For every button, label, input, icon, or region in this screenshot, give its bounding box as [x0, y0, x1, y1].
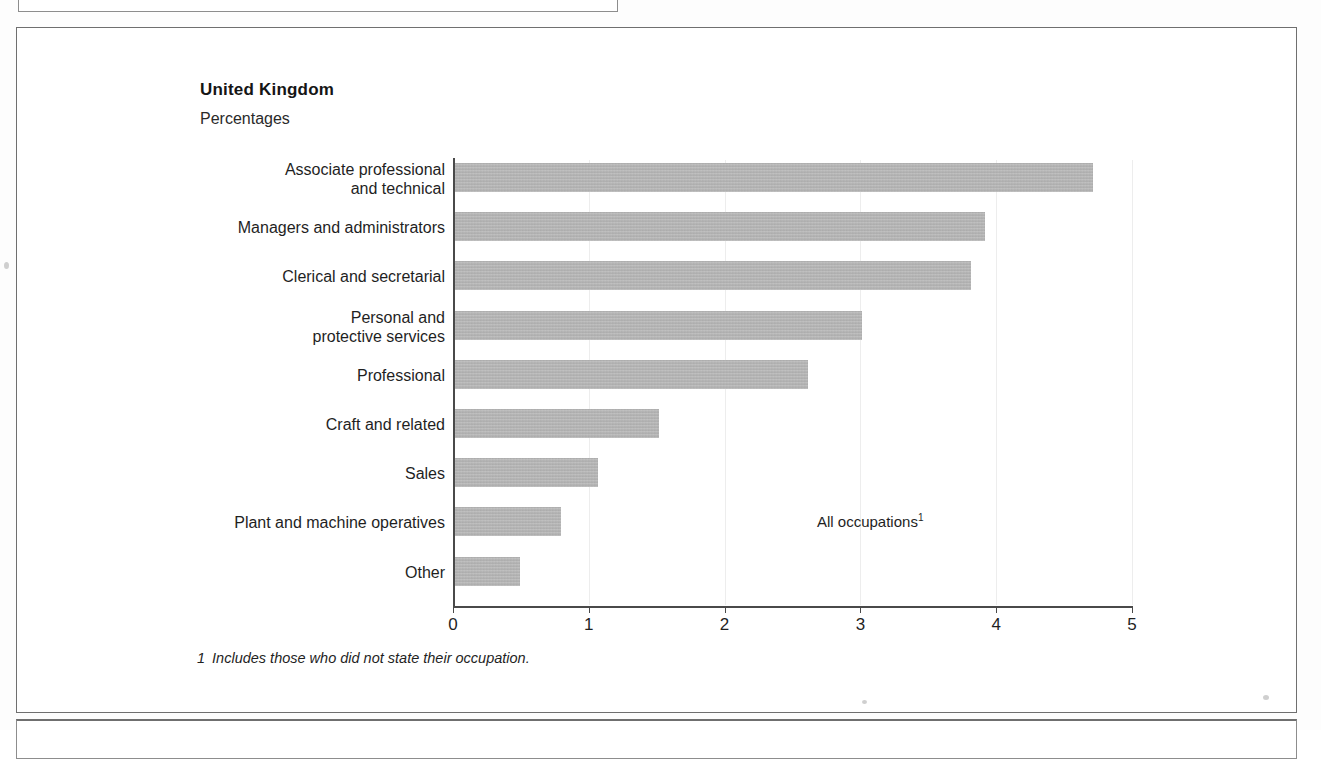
bar	[455, 212, 985, 241]
annotation-footnote-marker: 1	[918, 512, 924, 523]
bar-row: Associate professional and technical	[0, 163, 1321, 193]
x-tick-label: 2	[705, 615, 745, 635]
annotation-label: All occupations	[817, 513, 918, 530]
bar	[455, 261, 971, 290]
x-tick-label: 1	[569, 615, 609, 635]
bar	[455, 163, 1093, 192]
x-tick-mark	[1132, 606, 1133, 613]
bar-category-label: Managers and administrators	[45, 218, 445, 237]
x-tick-label: 0	[433, 615, 473, 635]
x-tick-mark	[453, 606, 454, 613]
bar-row: Personal and protective services	[0, 311, 1321, 341]
bar-row: Professional	[0, 360, 1321, 390]
x-tick-label: 4	[976, 615, 1016, 635]
bar	[455, 557, 520, 586]
bar-category-label: Clerical and secretarial	[45, 267, 445, 286]
bar-category-label: Plant and machine operatives	[45, 513, 445, 532]
x-tick-mark	[725, 606, 726, 613]
x-tick-mark	[589, 606, 590, 613]
bar-row: Other	[0, 557, 1321, 587]
bar-row: Clerical and secretarial	[0, 261, 1321, 291]
bar	[455, 360, 808, 389]
bar	[455, 458, 598, 487]
bar-category-label: Sales	[45, 464, 445, 483]
bar-category-label: Associate professional and technical	[45, 160, 445, 198]
footnote-marker: 1	[197, 650, 205, 666]
x-axis-line	[453, 606, 1132, 608]
x-tick-label: 5	[1112, 615, 1152, 635]
footnote: 1Includes those who did not state their …	[197, 650, 530, 666]
bar	[455, 311, 862, 340]
bar-row: Plant and machine operatives	[0, 507, 1321, 537]
bar-category-label: Craft and related	[45, 415, 445, 434]
bar-row: Managers and administrators	[0, 212, 1321, 242]
bar	[455, 507, 561, 536]
bar-category-label: Personal and protective services	[45, 308, 445, 346]
bar	[455, 409, 659, 438]
x-tick-mark	[996, 606, 997, 613]
x-tick-label: 3	[840, 615, 880, 635]
bar-row: Sales	[0, 458, 1321, 488]
bar-category-label: Other	[45, 563, 445, 582]
x-tick-mark	[860, 606, 861, 613]
all-occupations-annotation: All occupations1	[817, 512, 923, 530]
bar-row: Craft and related	[0, 409, 1321, 439]
footnote-text: Includes those who did not state their o…	[212, 650, 530, 666]
bar-category-label: Professional	[45, 366, 445, 385]
